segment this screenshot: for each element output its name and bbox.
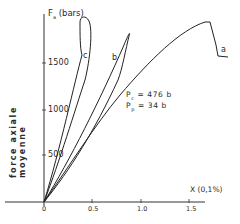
x-axis-label: X (0,1%) [190, 186, 222, 194]
y-axis-title-sub: a [53, 14, 56, 20]
annotation-pc: Pc = 476 b [126, 91, 172, 101]
curve-label-a: a [221, 46, 226, 54]
y-axis-title-unit: (bars) [59, 8, 84, 18]
x-tick-label-0.5: 0.5 [88, 206, 98, 213]
y-tick-label-500: 500 [48, 151, 64, 159]
curve-label-c: c [83, 52, 87, 60]
y-tick-label-1000: 1000 [48, 106, 69, 114]
y-axis-label: force axiale moyenne [9, 58, 27, 178]
annotation-pp: Pp = 34 b [126, 102, 167, 112]
curve-a [44, 22, 228, 202]
y-axis-title: Fa (bars) [48, 9, 84, 20]
x-tick-label-1.0: 1.0 [137, 206, 147, 213]
x-tick-label-1.5: 1.5 [186, 206, 196, 213]
x-tick-label-0: 0 [42, 206, 46, 213]
y-tick-label-1500: 1500 [48, 59, 69, 67]
annotation-pp-value: = 34 b [135, 101, 167, 110]
curve-label-b: b [112, 54, 117, 62]
annotation-pc-value: = 476 b [134, 90, 171, 99]
